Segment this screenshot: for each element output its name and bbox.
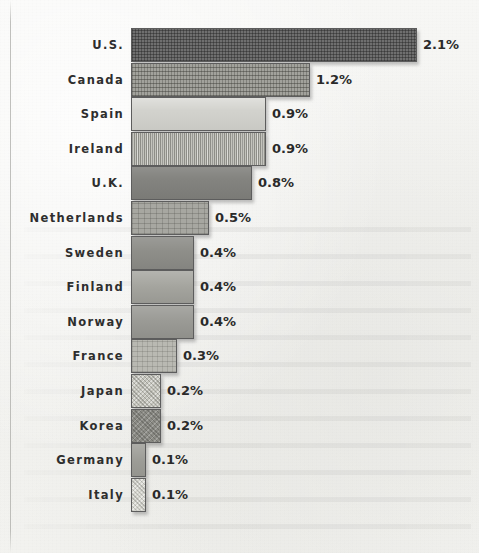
- bar-row: Ireland0.9%: [0, 132, 479, 166]
- bar: [131, 409, 161, 443]
- bar-value-label: 0.3%: [183, 339, 219, 373]
- bar: [131, 478, 146, 512]
- category-label: Spain: [0, 97, 124, 131]
- bar-value-label: 0.9%: [272, 132, 308, 166]
- bar-row: Italy0.1%: [0, 478, 479, 512]
- category-label: Germany: [0, 443, 124, 477]
- bar-fill: [131, 305, 194, 339]
- category-label: Canada: [0, 63, 124, 97]
- bar-fill: [131, 478, 146, 512]
- bar-fill: [131, 28, 417, 62]
- bar-hatch-texture: [132, 271, 193, 303]
- bar-fill: [131, 166, 252, 200]
- bar-row: Korea0.2%: [0, 409, 479, 443]
- bar: [131, 166, 252, 200]
- bar-value-label: 0.1%: [152, 443, 188, 477]
- horizontal-bar-chart: U.S.2.1%Canada1.2%Spain0.9%Ireland0.9%U.…: [0, 0, 479, 553]
- bar-hatch-texture: [132, 167, 251, 199]
- bar-fill: [131, 374, 161, 408]
- bar-row: Canada1.2%: [0, 63, 479, 97]
- bar-hatch-texture: [132, 202, 208, 234]
- bar-hatch-texture: [132, 64, 309, 96]
- bar-value-label: 0.4%: [200, 236, 236, 270]
- bar-hatch-texture: [132, 237, 193, 269]
- category-label: Finland: [0, 270, 124, 304]
- bar-hatch-texture: [132, 410, 160, 442]
- category-label: Italy: [0, 478, 124, 512]
- bar-value-label: 0.1%: [152, 478, 188, 512]
- category-label: Japan: [0, 374, 124, 408]
- bar-row: France0.3%: [0, 339, 479, 373]
- chart-page: U.S.2.1%Canada1.2%Spain0.9%Ireland0.9%U.…: [0, 0, 479, 553]
- bar-row: U.S.2.1%: [0, 28, 479, 62]
- category-label: Korea: [0, 409, 124, 443]
- bar-hatch-texture: [132, 133, 265, 165]
- bar-row: Netherlands0.5%: [0, 201, 479, 235]
- category-label: Ireland: [0, 132, 124, 166]
- bar-fill: [131, 63, 310, 97]
- bar-hatch-texture: [132, 306, 193, 338]
- bar-fill: [131, 443, 146, 477]
- bar: [131, 97, 266, 131]
- bar: [131, 339, 177, 373]
- bar-hatch-texture: [132, 340, 176, 372]
- bar-value-label: 0.4%: [200, 270, 236, 304]
- bar: [131, 374, 161, 408]
- bar-value-label: 0.2%: [167, 409, 203, 443]
- bar: [131, 63, 310, 97]
- bar-fill: [131, 270, 194, 304]
- category-label: U.S.: [0, 28, 124, 62]
- bar-fill: [131, 132, 266, 166]
- bar-fill: [131, 97, 266, 131]
- bar-row: Norway0.4%: [0, 305, 479, 339]
- bar-value-label: 0.4%: [200, 305, 236, 339]
- category-label: France: [0, 339, 124, 373]
- bar-row: Sweden0.4%: [0, 236, 479, 270]
- category-label: U.K.: [0, 166, 124, 200]
- bar: [131, 201, 209, 235]
- bar-fill: [131, 409, 161, 443]
- bar-hatch-texture: [132, 444, 145, 476]
- bar-value-label: 0.5%: [215, 201, 251, 235]
- bar-row: Germany0.1%: [0, 443, 479, 477]
- bar-hatch-texture: [132, 29, 416, 61]
- bar-hatch-texture: [132, 375, 160, 407]
- bar-value-label: 2.1%: [423, 28, 459, 62]
- bar-value-label: 1.2%: [316, 63, 352, 97]
- category-label: Norway: [0, 305, 124, 339]
- bar-fill: [131, 339, 177, 373]
- bar: [131, 270, 194, 304]
- bar-row: U.K.0.8%: [0, 166, 479, 200]
- bar: [131, 443, 146, 477]
- category-label: Sweden: [0, 236, 124, 270]
- bar-row: Finland0.4%: [0, 270, 479, 304]
- bar-value-label: 0.9%: [272, 97, 308, 131]
- bar-row: Spain0.9%: [0, 97, 479, 131]
- category-label: Netherlands: [0, 201, 124, 235]
- bar: [131, 236, 194, 270]
- bar: [131, 28, 417, 62]
- bar-value-label: 0.2%: [167, 374, 203, 408]
- bar-fill: [131, 201, 209, 235]
- bar: [131, 132, 266, 166]
- bar-hatch-texture: [132, 98, 265, 130]
- bar-fill: [131, 236, 194, 270]
- bar: [131, 305, 194, 339]
- bar-hatch-texture: [132, 479, 145, 511]
- bar-row: Japan0.2%: [0, 374, 479, 408]
- bar-value-label: 0.8%: [258, 166, 294, 200]
